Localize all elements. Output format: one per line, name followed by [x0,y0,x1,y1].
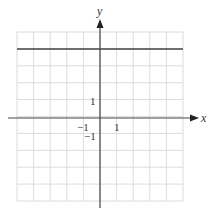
y-axis-label: y [96,4,103,18]
tick-label-y-neg1: −1 [84,130,96,142]
tick-label-x-pos1: 1 [114,121,120,133]
x-axis-label: x [200,111,207,125]
tick-label-y-pos1: 1 [90,95,96,107]
y-axis-arrow-icon [97,19,104,28]
x-axis-arrow-icon [190,115,199,122]
coordinate-plane: x y −1 1 1 −1 [0,0,211,217]
